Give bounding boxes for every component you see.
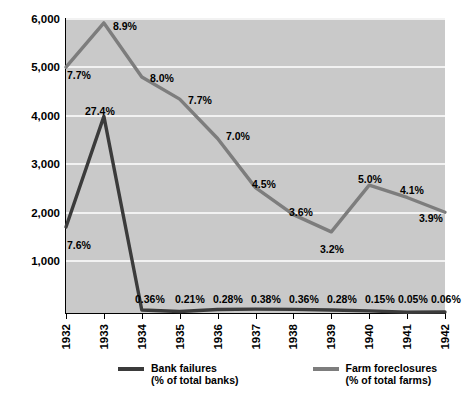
series-line-bank-failures [66,116,445,312]
point-label-farm-1938: 3.6% [289,207,313,218]
point-label-farm-1942: 3.9% [419,213,443,224]
legend-series-name: Bank failures [151,362,217,374]
point-label-bank-1935: 0.21% [175,294,205,305]
point-label-bank-1939: 0.28% [327,294,357,305]
point-label-bank-1938: 0.36% [289,294,319,305]
legend-series-sublabel: (% of total banks) [151,374,239,386]
point-label-farm-1934: 8.0% [150,73,174,84]
point-label-farm-1939: 3.2% [320,244,344,255]
point-label-bank-1936: 0.28% [213,294,243,305]
point-label-farm-1933: 8.9% [113,21,137,32]
point-label-bank-1942: 0.06% [431,294,461,305]
chart-container: 6,000 5,000 4,000 3,000 2,000 1,000 1932… [0,0,473,405]
point-label-bank-1933: 27.4% [85,106,115,117]
point-label-farm-1935: 7.7% [188,95,212,106]
chart-legend: Bank failures (% of total banks) Farm fo… [66,362,445,394]
legend-series-name: Farm foreclosures [346,362,438,374]
point-label-farm-1936: 7.0% [226,131,250,142]
point-label-farm-1932: 7.7% [67,70,91,81]
point-label-bank-1941: 0.05% [398,294,428,305]
legend-item-farm-foreclosures: Farm foreclosures (% of total farms) [313,362,438,386]
series-layer [0,0,473,405]
point-label-farm-1937: 4.5% [252,179,276,190]
legend-series-sublabel: (% of total farms) [346,374,432,386]
series-line-farm-foreclosures [66,23,445,232]
legend-swatch-bank-failures [118,367,144,371]
point-label-bank-1937: 0.38% [251,294,281,305]
point-label-bank-1934: 0.36% [135,294,165,305]
point-label-bank-1940: 0.15% [365,294,395,305]
legend-item-bank-failures: Bank failures (% of total banks) [118,362,239,386]
point-label-farm-1941: 4.1% [400,185,424,196]
legend-label-farm-foreclosures: Farm foreclosures (% of total farms) [346,362,438,386]
legend-label-bank-failures: Bank failures (% of total banks) [151,362,239,386]
legend-swatch-farm-foreclosures [313,367,339,371]
point-label-farm-1940: 5.0% [358,174,382,185]
point-label-bank-1932: 7.6% [67,240,91,251]
